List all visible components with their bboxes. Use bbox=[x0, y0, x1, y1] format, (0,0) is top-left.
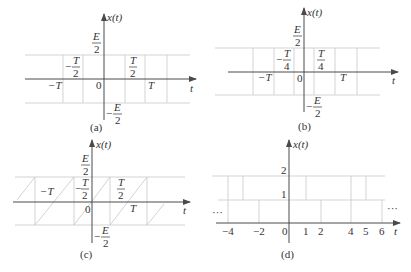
x-axis-label-b: t bbox=[392, 74, 396, 86]
top-level-num-c: E bbox=[81, 152, 89, 164]
tick-neg-quarter-den-b: 4 bbox=[284, 60, 290, 72]
tick-half-den-a: 2 bbox=[130, 67, 136, 79]
panel-c: x(t) t E 2 − E 2 −T − T 2 0 T 2 T (c) bbox=[13, 138, 190, 261]
y-axis-label-c: x(t) bbox=[95, 138, 112, 151]
tick-T-c: T bbox=[130, 202, 137, 214]
bottom-level-den-c: 2 bbox=[103, 237, 109, 249]
tick-neg-T-b: −T bbox=[258, 71, 272, 83]
figure-canvas: x(t) t E 2 − E 2 −T − T 2 0 T 2 T (a) bbox=[0, 0, 411, 272]
panel-a: x(t) t E 2 − E 2 −T − T 2 0 T 2 T (a) bbox=[25, 11, 196, 134]
x-axis-label-a: t bbox=[190, 82, 194, 94]
tick-zero-a: 0 bbox=[96, 79, 102, 91]
top-level-num-a: E bbox=[92, 30, 100, 42]
tick-neg-quarter-num-b: T bbox=[284, 47, 291, 59]
x-tick-5-d: 5 bbox=[363, 225, 369, 237]
caption-b: (b) bbox=[298, 120, 311, 133]
tick-neg-quarter-sign-b: − bbox=[276, 53, 282, 65]
y-axis-label-b: x(t) bbox=[306, 6, 323, 19]
tick-neg-half-num-a: T bbox=[73, 54, 80, 66]
staircase-wave-d bbox=[212, 176, 385, 223]
tick-neg-half-sign-c: − bbox=[75, 182, 81, 194]
y-tick-1-d: 1 bbox=[281, 188, 287, 200]
bottom-level-num-b: E bbox=[313, 94, 321, 106]
tick-half-den-c: 2 bbox=[118, 189, 124, 201]
x-axis-label-c: t bbox=[183, 204, 187, 216]
tick-zero-c: 0 bbox=[85, 203, 91, 215]
panel-d: x(t) t 1 2 −4 −2 0 1 2 4 5 6 ··· ··· (d) bbox=[212, 138, 400, 261]
top-level-den-a: 2 bbox=[94, 43, 100, 55]
top-level-num-b: E bbox=[293, 23, 301, 35]
tick-neg-T-c: −T bbox=[40, 185, 54, 197]
tick-neg-half-num-c: T bbox=[82, 176, 89, 188]
top-level-den-b: 2 bbox=[295, 36, 301, 48]
y-axis-label-d: x(t) bbox=[292, 138, 309, 151]
x-tick-1-d: 1 bbox=[303, 225, 309, 237]
tick-half-num-c: T bbox=[118, 176, 125, 188]
bottom-level-sign-a: − bbox=[106, 107, 112, 119]
tick-half-num-a: T bbox=[130, 54, 137, 66]
tick-neg-half-den-a: 2 bbox=[73, 67, 79, 79]
bottom-level-sign-c: − bbox=[94, 230, 100, 242]
bottom-level-den-a: 2 bbox=[115, 114, 121, 126]
bottom-level-num-c: E bbox=[101, 224, 109, 236]
caption-d: (d) bbox=[281, 248, 294, 261]
panel-b: x(t) t E 2 − E 2 −T − T 4 0 T 4 T (b) bbox=[215, 6, 398, 133]
tick-zero-b: 0 bbox=[297, 72, 303, 84]
y-tick-2-d: 2 bbox=[281, 164, 287, 176]
x-tick-0-d: 0 bbox=[282, 225, 288, 237]
tick-neg-T-a: −T bbox=[48, 79, 62, 91]
x-tick-6-d: 6 bbox=[379, 225, 385, 237]
caption-a: (a) bbox=[90, 121, 103, 134]
x-tick--2-d: −2 bbox=[253, 225, 265, 237]
tick-quarter-den-b: 4 bbox=[318, 60, 324, 72]
bottom-level-sign-b: − bbox=[306, 100, 312, 112]
ellipsis-left-d: ··· bbox=[212, 206, 223, 218]
ellipsis-right-d: ··· bbox=[387, 202, 398, 214]
bottom-level-num-a: E bbox=[113, 101, 121, 113]
tick-T-b: T bbox=[340, 71, 347, 83]
y-axis-label-a: x(t) bbox=[106, 11, 123, 24]
tick-neg-half-sign-a: − bbox=[65, 60, 71, 72]
x-axis-label-d: t bbox=[394, 225, 398, 237]
tick-neg-half-den-c: 2 bbox=[82, 189, 88, 201]
bottom-level-den-b: 2 bbox=[315, 107, 321, 119]
x-tick-2-d: 2 bbox=[318, 225, 324, 237]
tick-quarter-num-b: T bbox=[318, 47, 325, 59]
tick-T-a: T bbox=[148, 79, 155, 91]
caption-c: (c) bbox=[80, 248, 93, 261]
x-tick-4-d: 4 bbox=[348, 225, 354, 237]
x-tick--4-d: −4 bbox=[222, 225, 234, 237]
